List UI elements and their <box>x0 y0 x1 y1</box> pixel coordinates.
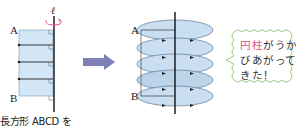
bubble-text: 円柱がうかびあがってきた！ <box>240 38 298 83</box>
vertex-a-right: A <box>131 25 139 36</box>
rectangle-abcd <box>18 30 53 100</box>
vertex-b-right: B <box>131 91 138 102</box>
vertex-b-left: B <box>10 93 17 104</box>
bubble-highlight: 円柱 <box>240 39 263 51</box>
caption-text: 長方形 ABCD を <box>0 113 72 128</box>
transform-arrow-icon <box>83 54 115 70</box>
axis-label-l: ℓ <box>51 6 55 16</box>
vertex-a-left: A <box>10 25 18 36</box>
